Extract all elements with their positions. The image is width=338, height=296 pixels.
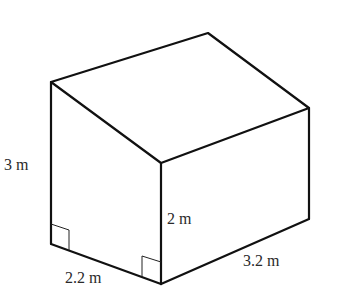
right-bottom-edge	[161, 219, 309, 284]
top-face	[51, 33, 309, 163]
prism-diagram: 3 m 2 m 3.2 m 2.2 m	[0, 0, 338, 296]
label-length: 3.2 m	[243, 252, 280, 269]
right-angle-marker-front	[142, 256, 161, 277]
label-left-height: 3 m	[4, 156, 29, 173]
label-front-height: 2 m	[167, 210, 192, 227]
label-width: 2.2 m	[65, 269, 102, 286]
